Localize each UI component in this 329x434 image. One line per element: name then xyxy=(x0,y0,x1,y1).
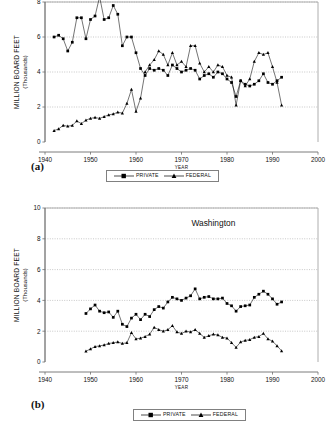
data-point-private xyxy=(98,310,101,313)
data-point-private xyxy=(144,313,147,316)
data-point-private xyxy=(112,316,115,319)
data-point-federal xyxy=(93,116,96,119)
legend-private-label: PRIVATE xyxy=(136,173,159,178)
legend-entry-private: PRIVATE xyxy=(141,411,186,419)
series-line-federal xyxy=(86,326,282,351)
y-axis-tick-label: 0 xyxy=(37,138,41,145)
data-point-private xyxy=(267,293,270,296)
data-point-federal xyxy=(130,331,133,334)
data-point-federal xyxy=(248,77,251,80)
data-point-private xyxy=(280,76,283,79)
y-axis-tick-label: 6 xyxy=(37,33,41,40)
data-point-private xyxy=(121,44,124,47)
y-axis-tick-label: 6 xyxy=(37,266,41,273)
data-point-private xyxy=(89,18,92,21)
data-point-federal xyxy=(194,328,197,331)
data-point-federal xyxy=(216,63,219,66)
data-point-private xyxy=(221,72,224,75)
data-point-private xyxy=(126,325,129,328)
data-point-private xyxy=(276,303,279,306)
data-point-federal xyxy=(157,328,160,331)
data-point-private xyxy=(167,301,170,304)
data-point-federal xyxy=(198,62,201,65)
x-axis-tick-label: 1980 xyxy=(220,156,235,163)
data-point-private xyxy=(103,18,106,21)
data-point-federal xyxy=(280,104,283,107)
x-axis-tick-label: 1950 xyxy=(83,376,98,383)
data-point-federal xyxy=(257,335,260,338)
data-point-private xyxy=(280,301,283,304)
data-point-private xyxy=(112,4,115,7)
legend-federal-label: FEDERAL xyxy=(186,173,211,178)
data-point-private xyxy=(162,69,165,72)
data-point-private xyxy=(85,312,88,315)
y-axis-tick-label: 8 xyxy=(37,235,41,242)
data-point-federal xyxy=(75,119,78,122)
data-point-private xyxy=(235,310,238,313)
data-point-federal xyxy=(253,60,256,63)
data-point-private xyxy=(258,293,261,296)
x-axis-tick-label: 1960 xyxy=(129,376,144,383)
legend-private-marker-icon xyxy=(141,411,161,419)
data-point-federal xyxy=(134,110,137,113)
data-point-private xyxy=(262,72,265,75)
data-point-federal xyxy=(139,97,142,100)
data-point-private xyxy=(85,37,88,40)
data-point-federal xyxy=(221,336,224,339)
legend-private-label: PRIVATE xyxy=(163,412,186,417)
data-point-private xyxy=(94,15,97,18)
data-point-federal xyxy=(125,341,128,344)
series-line-private xyxy=(86,289,282,327)
data-point-federal xyxy=(212,333,215,336)
y-axis-tick-label: 0 xyxy=(37,358,41,365)
chart-a-canvas: 024681940195019601970198019902000YEARMIL… xyxy=(0,0,329,195)
y-axis-tick-label: 2 xyxy=(37,328,41,335)
legend-private-marker-icon xyxy=(114,172,134,180)
data-point-private xyxy=(62,37,65,40)
data-point-federal xyxy=(57,127,60,130)
x-axis-tick-label: 1970 xyxy=(174,156,189,163)
legend-federal-label: FEDERAL xyxy=(213,412,238,417)
data-point-federal xyxy=(171,324,174,327)
data-point-federal xyxy=(89,347,92,350)
data-point-federal xyxy=(130,88,133,91)
data-point-private xyxy=(153,308,156,311)
data-point-private xyxy=(212,298,215,301)
data-point-private xyxy=(262,290,265,293)
x-axis-tick-label: 2000 xyxy=(311,156,326,163)
data-point-federal xyxy=(116,111,119,114)
legend-entry-private: PRIVATE xyxy=(114,172,159,180)
data-point-private xyxy=(139,67,142,70)
x-axis-tick-label: 1960 xyxy=(129,156,144,163)
data-point-federal xyxy=(162,53,165,56)
data-point-private xyxy=(253,296,256,299)
x-axis-title: YEAR xyxy=(175,165,189,170)
chart-a-legend: PRIVATE FEDERAL xyxy=(106,170,219,182)
data-point-federal xyxy=(125,102,128,105)
y-axis-tick-label: 2 xyxy=(37,103,41,110)
data-point-private xyxy=(57,34,60,37)
data-point-private xyxy=(189,67,192,70)
panel-a-label: (a) xyxy=(31,160,44,172)
data-point-private xyxy=(121,323,124,326)
data-point-private xyxy=(139,318,142,321)
data-point-federal xyxy=(266,51,269,54)
x-axis-tick-label: 2000 xyxy=(311,376,326,383)
data-point-private xyxy=(207,72,210,75)
data-point-private xyxy=(171,64,174,67)
data-point-private xyxy=(203,296,206,299)
data-point-federal xyxy=(153,58,156,61)
data-point-federal xyxy=(166,63,169,66)
data-point-private xyxy=(66,50,69,53)
data-point-private xyxy=(148,67,151,70)
data-point-private xyxy=(180,299,183,302)
data-point-private xyxy=(189,294,192,297)
data-point-private xyxy=(94,304,97,307)
x-axis-tick-label: 1990 xyxy=(265,376,280,383)
data-point-private xyxy=(130,36,133,39)
data-point-private xyxy=(226,302,229,305)
data-point-federal xyxy=(175,63,178,66)
data-point-federal xyxy=(116,340,119,343)
data-point-private xyxy=(244,304,247,307)
chart-b-canvas: 02468101940195019601970198019902000YEARM… xyxy=(0,195,329,434)
